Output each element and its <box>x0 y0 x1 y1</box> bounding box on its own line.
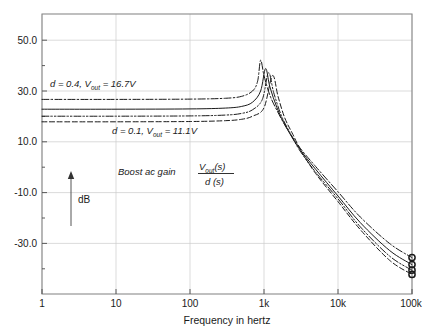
x-tick-label: 100 <box>182 298 199 309</box>
y-tick-label: 10.0 <box>18 136 38 147</box>
x-tick-label: 10 <box>110 298 122 309</box>
transfer-function-denominator: d (s) <box>205 176 224 187</box>
numerator-argument: (s) <box>214 161 225 172</box>
db-axis-label: dB <box>78 194 91 205</box>
annotation-eq2: = 11.1 <box>162 125 191 136</box>
x-tick-label: 10k <box>330 298 347 309</box>
annotation-eq1: = 0.1, <box>117 125 146 136</box>
x-tick-label: 1 <box>39 298 45 309</box>
transfer-function-label: Boost ac gain <box>118 166 176 177</box>
annotation-eq1: = 0.4, <box>55 78 84 89</box>
y-tick-label: -30.0 <box>14 238 37 249</box>
bode-plot-svg: 50.0 30.0 10.0 -10.0 -30.0 1 10 100 1k 1… <box>0 0 435 331</box>
y-tick-label: 30.0 <box>18 86 38 97</box>
y-tick-label: 50.0 <box>18 35 38 46</box>
x-tick-label: 100k <box>400 298 423 309</box>
x-axis-title: Frequency in hertz <box>184 314 271 326</box>
x-tick-label: 1k <box>259 298 271 309</box>
chart-figure: 50.0 30.0 10.0 -10.0 -30.0 1 10 100 1k 1… <box>0 0 435 331</box>
y-tick-label: -10.0 <box>14 187 37 198</box>
annotation-eq2: = 16.7 <box>100 78 130 89</box>
